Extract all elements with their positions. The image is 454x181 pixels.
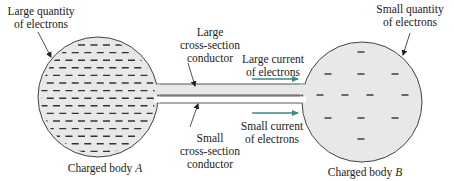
- label-large-current: Large current of electrons: [238, 53, 308, 79]
- label-large-quantity-line2: of electrons: [4, 18, 78, 31]
- label-charged-body-b-var: B: [395, 166, 402, 178]
- leader-small-conductor-icon: [190, 104, 198, 127]
- label-charged-body-a-var: A: [135, 162, 142, 174]
- label-charged-body-a: Charged body A: [50, 162, 160, 175]
- leader-small-quantity-icon: [403, 33, 410, 55]
- small-cross-section-conductor: [156, 96, 304, 103]
- charged-body-a: [38, 37, 158, 157]
- conductor-joint-b: [300, 85, 306, 95]
- label-large-current-line1: Large current: [238, 53, 308, 66]
- leader-large-conductor-icon: [188, 63, 195, 86]
- label-large-conductor-line1: Large: [150, 26, 270, 39]
- conductor-joint-a: [154, 85, 160, 95]
- label-small-conductor: Small cross-section conductor: [150, 132, 270, 171]
- label-small-quantity-line2: of electrons: [370, 16, 450, 29]
- label-small-conductor-line2: cross-section: [150, 145, 270, 158]
- label-charged-body-b: Charged body B: [310, 166, 420, 179]
- label-large-quantity-line1: Large quantity: [4, 5, 78, 18]
- conductor-joint-a-small: [154, 97, 160, 103]
- label-large-conductor-line2: cross-section: [150, 39, 270, 52]
- conductor-joint-b-small: [300, 97, 306, 103]
- leader-large-quantity-icon: [38, 32, 51, 57]
- charged-body-b: [302, 42, 422, 162]
- label-charged-body-b-text: Charged body: [328, 166, 396, 178]
- label-small-conductor-line3: conductor: [150, 158, 270, 171]
- label-small-conductor-line1: Small: [150, 132, 270, 145]
- large-cross-section-conductor: [156, 84, 304, 95]
- label-small-quantity-line1: Small quantity: [370, 3, 450, 16]
- label-charged-body-a-text: Charged body: [68, 162, 136, 174]
- label-large-current-line2: of electrons: [238, 66, 308, 79]
- label-small-quantity: Small quantity of electrons: [370, 3, 450, 29]
- label-large-quantity: Large quantity of electrons: [4, 5, 78, 31]
